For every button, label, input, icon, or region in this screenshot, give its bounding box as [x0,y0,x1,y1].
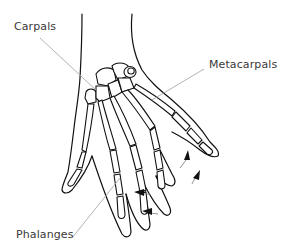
hand-illustration [0,0,285,252]
arrow-icon [180,150,190,168]
phalanges-label: Phalanges [16,228,74,241]
arrow-icon [192,170,200,184]
phalanges-leader-line [72,178,120,238]
metacarpals-leader-line [152,69,204,100]
metacarpals-label: Metacarpals [209,58,277,71]
carpals-label: Carpals [14,20,56,33]
hand-bones-diagram: Carpals Metacarpals Phalanges [0,0,285,252]
carpals-leader-line [40,38,96,90]
